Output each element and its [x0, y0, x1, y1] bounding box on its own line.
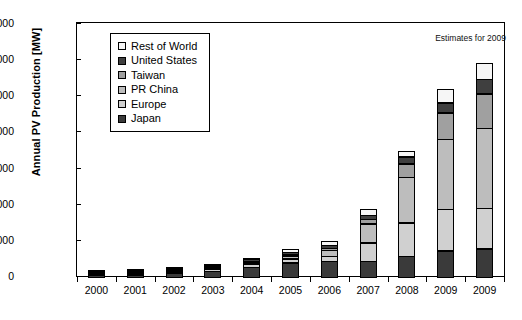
legend-swatch-icon	[118, 86, 126, 94]
legend-swatch-icon	[118, 42, 126, 50]
bar-2009-estimate	[476, 63, 493, 277]
y-axis-tick-label: 2000	[0, 234, 14, 246]
legend-item-label: United States	[131, 55, 197, 66]
x-axis-tick-mark	[310, 277, 311, 282]
bar-segment-japan	[282, 263, 299, 278]
legend-item-japan: Japan	[118, 112, 197, 127]
bar-segment-pr-china	[437, 139, 454, 209]
y-axis-title: Annual PV Production [MW]	[30, 12, 42, 192]
bar-segment-japan	[166, 273, 183, 278]
bar-segment-japan	[321, 261, 338, 278]
bar-2006	[321, 241, 338, 277]
y-axis-tick-label: 12000	[0, 53, 14, 65]
bar-segment-taiwan	[398, 164, 415, 178]
legend-item-europe: Europe	[118, 97, 197, 112]
y-axis-tick-label: 6000	[0, 162, 14, 174]
legend-item-label: Japan	[131, 113, 161, 124]
x-axis-tick-label: 2000	[85, 284, 108, 296]
legend-swatch-icon	[118, 71, 126, 79]
y-axis-tick-label: 14000	[0, 17, 14, 29]
bar-2007	[360, 209, 377, 277]
bar-segment-pr-china	[360, 224, 377, 244]
legend-item-label: Taiwan	[131, 70, 165, 81]
bar-2008	[398, 151, 415, 277]
y-axis-tick-label: 0	[0, 270, 14, 282]
x-axis-tick-label: 2007	[356, 284, 379, 296]
bar-segment-japan	[88, 275, 105, 277]
bar-segment-europe	[476, 208, 493, 250]
bar-2000	[88, 270, 105, 277]
x-axis-tick-mark	[349, 277, 350, 282]
x-axis-tick-mark	[465, 277, 466, 282]
legend-swatch-icon	[118, 115, 126, 123]
bar-segment-taiwan	[476, 94, 493, 129]
legend-item-united-states: United States	[118, 54, 197, 69]
x-axis-tick-label: 2003	[201, 284, 224, 296]
bar-segment-japan	[243, 267, 260, 278]
x-axis-tick-mark	[388, 277, 389, 282]
bar-2002	[166, 267, 183, 277]
pv-production-bar-chart: Annual PV Production [MW] 02000400060008…	[0, 0, 522, 320]
bar-2001	[127, 269, 144, 277]
legend-swatch-icon	[118, 57, 126, 65]
x-axis-tick-mark	[271, 277, 272, 282]
bar-segment-europe	[437, 209, 454, 251]
x-axis-tick-mark	[504, 277, 505, 282]
x-axis-tick-label: 2009	[434, 284, 457, 296]
x-axis-tick-mark	[155, 277, 156, 282]
bar-segment-pr-china	[398, 177, 415, 223]
legend-item-label: PR China	[131, 84, 178, 95]
x-axis-tick-label: 2008	[395, 284, 418, 296]
bar-segment-japan	[476, 249, 493, 278]
y-axis-tick-label: 10000	[0, 89, 14, 101]
bar-segment-japan	[437, 251, 454, 278]
x-axis-tick-mark	[116, 277, 117, 282]
bar-segment-japan	[127, 275, 144, 278]
bar-2003	[204, 264, 221, 277]
bar-2004	[243, 258, 260, 277]
bar-segment-taiwan	[437, 113, 454, 140]
bar-segment-united-states	[476, 79, 493, 94]
x-axis-tick-mark	[77, 277, 78, 282]
bar-segment-pr-china	[476, 128, 493, 208]
bar-segment-rest-of-world	[476, 63, 493, 79]
bar-segment-europe	[360, 243, 377, 262]
bar-segment-europe	[398, 223, 415, 257]
bar-segment-rest-of-world	[437, 89, 454, 103]
legend-item-taiwan: Taiwan	[118, 68, 197, 83]
bar-2005	[282, 249, 299, 277]
bar-segment-japan	[360, 261, 377, 278]
x-axis-tick-label: 2006	[318, 284, 341, 296]
x-axis-tick-label: 2009	[473, 284, 496, 296]
legend-item-label: Europe	[131, 99, 166, 110]
estimates-annotation: Estimates for 2009	[435, 33, 506, 43]
x-axis-tick-label: 2004	[240, 284, 263, 296]
legend-item-pr-china: PR China	[118, 83, 197, 98]
legend-item-rest-of-world: Rest of World	[118, 39, 197, 54]
x-axis-tick-mark	[193, 277, 194, 282]
legend-swatch-icon	[118, 100, 126, 108]
bar-2009	[437, 89, 454, 277]
bar-segment-japan	[398, 256, 415, 277]
y-axis-tick-label: 4000	[0, 198, 14, 210]
x-axis-tick-label: 2005	[279, 284, 302, 296]
bar-segment-japan	[204, 271, 221, 278]
x-axis-tick-label: 2001	[124, 284, 147, 296]
x-axis-tick-mark	[232, 277, 233, 282]
legend-item-label: Rest of World	[131, 41, 197, 52]
x-axis-tick-label: 2002	[162, 284, 185, 296]
y-axis-tick-label: 8000	[0, 125, 14, 137]
x-axis-tick-mark	[426, 277, 427, 282]
legend: Rest of WorldUnited StatesTaiwanPR China…	[110, 33, 210, 132]
